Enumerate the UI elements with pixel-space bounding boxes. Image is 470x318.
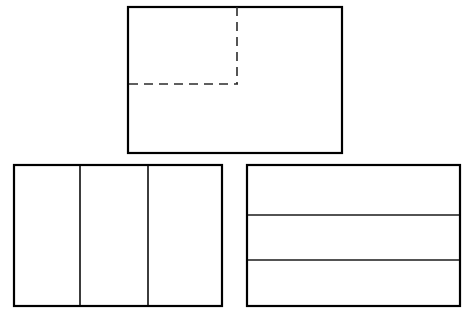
- figure-top-view: [128, 7, 342, 153]
- front-view-outline: [14, 165, 222, 306]
- top-view-outline: [128, 7, 342, 153]
- technical-drawing: [0, 0, 470, 318]
- figure-front-view: [14, 165, 222, 306]
- drawing-canvas: [0, 0, 470, 318]
- figure-side-view: [247, 165, 460, 306]
- side-view-outline: [247, 165, 460, 306]
